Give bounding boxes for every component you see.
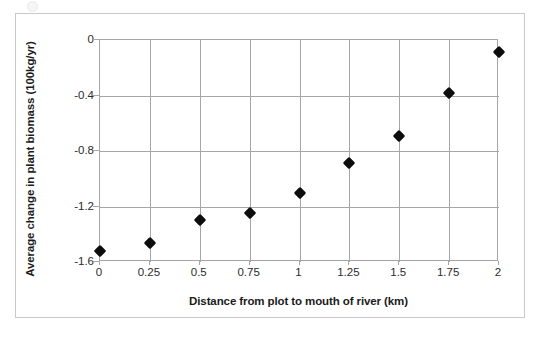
y-tick-mark xyxy=(93,39,99,40)
x-tick-mark xyxy=(99,261,100,265)
y-tick-mark xyxy=(93,150,99,151)
data-point-marker xyxy=(144,236,157,249)
data-point-marker xyxy=(293,186,306,199)
x-tick-label: 0.5 xyxy=(174,266,224,278)
x-gridline xyxy=(250,40,251,262)
x-tick-mark xyxy=(149,261,150,265)
x-gridline xyxy=(349,40,350,262)
x-tick-label: 1.25 xyxy=(323,266,373,278)
data-point-marker xyxy=(343,157,356,170)
x-axis-title: Distance from plot to mouth of river (km… xyxy=(99,295,498,307)
x-tick-label: 1.5 xyxy=(373,266,423,278)
x-tick-label: 0.25 xyxy=(124,266,174,278)
x-gridline xyxy=(399,40,400,262)
x-tick-mark xyxy=(249,261,250,265)
x-tick-label: 0 xyxy=(74,266,124,278)
x-gridline xyxy=(300,40,301,262)
y-tick-label: -1.2 xyxy=(48,200,94,212)
data-point-marker xyxy=(443,86,456,99)
x-tick-mark xyxy=(398,261,399,265)
x-gridline xyxy=(449,40,450,262)
x-tick-label: 1 xyxy=(274,266,324,278)
x-gridline xyxy=(150,40,151,262)
x-tick-label: 2 xyxy=(473,266,523,278)
plot-area xyxy=(99,39,498,261)
y-axis-ticks: 0-0.4-0.8-1.2-1.6 xyxy=(42,0,94,337)
y-tick-label: -0.8 xyxy=(48,144,94,156)
x-tick-mark xyxy=(498,261,499,265)
x-tick-label: 0.75 xyxy=(224,266,274,278)
scan-artifact-dot xyxy=(27,1,38,12)
y-tick-label: 0 xyxy=(48,33,94,45)
x-tick-mark xyxy=(199,261,200,265)
data-point-marker xyxy=(393,129,406,142)
data-point-marker xyxy=(243,207,256,220)
x-tick-mark xyxy=(348,261,349,265)
x-tick-label: 1.75 xyxy=(423,266,473,278)
x-tick-mark xyxy=(299,261,300,265)
x-gridline xyxy=(200,40,201,262)
x-tick-mark xyxy=(448,261,449,265)
y-tick-label: -0.4 xyxy=(48,89,94,101)
y-tick-mark xyxy=(93,206,99,207)
data-point-marker xyxy=(193,214,206,227)
y-tick-mark xyxy=(93,95,99,96)
y-axis-title: Average change in plant biomass (100kg/y… xyxy=(22,24,38,294)
